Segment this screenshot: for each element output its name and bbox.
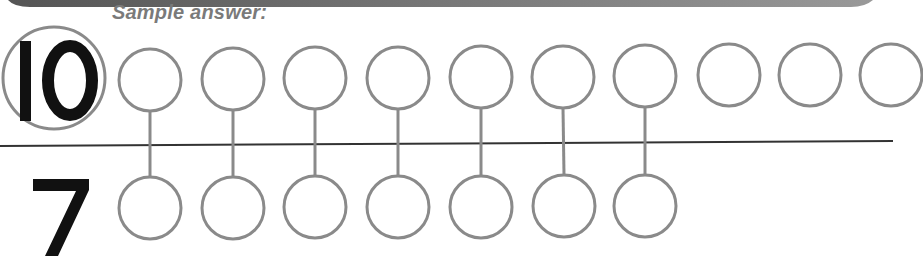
top-row-circles [119,44,922,111]
top-circle-3 [284,47,346,109]
bottom-circle-5 [450,176,512,238]
bottom-circle-7 [614,175,676,237]
digit-zero [48,46,92,115]
top-circle-10 [860,44,922,106]
bottom-circle-1 [119,177,181,239]
digit-seven [33,179,89,256]
numeral-7 [33,179,89,256]
top-circle-8 [698,44,760,106]
top-circle-7 [614,45,676,107]
top-circle-1 [119,49,181,111]
bottom-circle-4 [367,176,429,238]
numeral-10 [20,41,92,121]
connector-6 [563,108,564,175]
digit-one [20,41,31,121]
bottom-row-circles [119,175,676,239]
bottom-circle-2 [202,177,264,239]
top-circle-6 [532,46,594,108]
top-circle-5 [450,46,512,108]
ten-frame-worksheet [0,0,923,256]
sample-answer-caption: Sample answer: [112,1,267,24]
bottom-circle-6 [533,175,595,237]
divider-line [0,141,893,146]
top-circle-9 [779,44,841,106]
top-circle-4 [367,47,429,109]
top-circle-2 [202,48,264,110]
bottom-circle-3 [284,176,346,238]
